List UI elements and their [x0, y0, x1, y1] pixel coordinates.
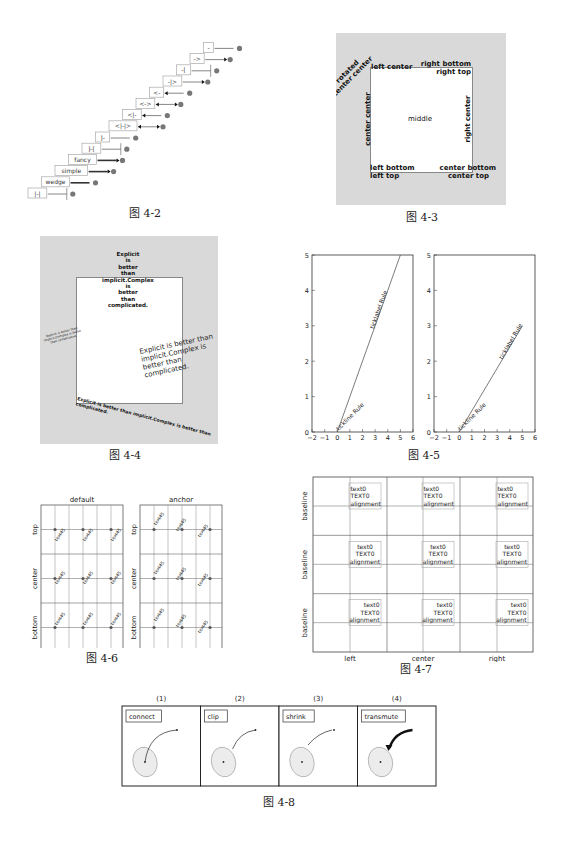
arrow-style-label: <|-|>: [115, 122, 131, 130]
svg-text:better: better: [118, 264, 138, 270]
svg-text:2: 2: [305, 358, 309, 366]
panel-label: shrink: [286, 713, 306, 721]
arrow-style-row: <|-|>: [109, 121, 166, 131]
grid-title: anchor: [169, 496, 193, 504]
figure-4-8: (1)connect(2)clip(3)shrink(4)transmute 图…: [110, 680, 450, 820]
multiline-text: TEXT0: [428, 550, 448, 557]
alignment-labels: rotated center center left center right …: [336, 33, 506, 205]
row-label: center: [130, 568, 138, 589]
arrow-style-label: -[: [181, 66, 186, 73]
svg-text:0: 0: [457, 434, 461, 442]
arrow-style-row: ]-: [96, 132, 139, 142]
svg-text:5: 5: [427, 252, 431, 260]
label-center-bottom: center bottom: [440, 164, 496, 172]
panel-label: connect: [129, 713, 155, 721]
multiline-text: alignment: [350, 558, 381, 566]
multiline-text: text0: [424, 485, 440, 492]
endpoint-dot: [111, 169, 116, 174]
figure-4-3: rotated center center left center right …: [336, 33, 506, 205]
svg-text:3: 3: [427, 322, 431, 330]
grid-anchor: anchortoptext45text45text45centertext45t…: [130, 496, 222, 648]
svg-text:0: 0: [427, 429, 431, 437]
svg-text:4: 4: [305, 287, 309, 295]
label-left-top: left top: [370, 172, 399, 180]
figure-4-6: defaulttoptext45text45text45centertext45…: [20, 460, 250, 660]
arrow-style-row: fancy: [69, 154, 126, 164]
plot-left: −2−10123456012345tickline Ruleticklabel …: [305, 252, 415, 443]
label-right-top: right top: [436, 68, 471, 76]
svg-text:complicated.: complicated.: [108, 302, 148, 309]
multiline-text: TEXT0: [433, 609, 453, 616]
svg-text:0: 0: [335, 434, 339, 442]
svg-text:4: 4: [508, 434, 512, 442]
label-right-bottom: right bottom: [421, 60, 471, 68]
endpoint-dot: [70, 191, 75, 196]
multiline-text: text0: [511, 601, 527, 608]
label-center-center: center center: [364, 92, 372, 146]
svg-text:5: 5: [305, 252, 309, 260]
panel-connect: (1)connect: [122, 695, 201, 786]
wrapped-text-demo: Explicitisbetterthanimplicit.Complexisbe…: [40, 236, 218, 444]
alignment-grid: baselinetext0TEXT0alignmenttext0TEXT0ali…: [301, 477, 533, 662]
endpoint-dot: [133, 135, 138, 140]
arrow-style-label: |-|: [34, 190, 40, 198]
multiline-text: text0: [504, 543, 520, 550]
svg-text:better: better: [118, 289, 138, 295]
multiline-text: alignment: [498, 500, 529, 508]
endpoint-dot: [120, 158, 125, 163]
arrow-style-row: -: [204, 42, 243, 52]
multiline-text: alignment: [424, 500, 455, 508]
figure-caption: 图 4-2: [115, 204, 175, 220]
rotation-mode-plots: −2−10123456012345tickline Ruleticklabel …: [300, 240, 550, 448]
arrow-style-row: simple: [55, 166, 116, 176]
multiline-text: text0: [357, 543, 373, 550]
svg-text:3: 3: [373, 434, 377, 442]
row-label: bottom: [130, 616, 138, 640]
panel-label: transmute: [365, 713, 399, 721]
endpoint-dot: [237, 46, 242, 51]
svg-text:than: than: [121, 296, 135, 302]
arrow-style-row: <-: [150, 87, 193, 97]
row-label: baseline: [301, 492, 309, 521]
figure-caption: 图 4-8: [249, 793, 309, 809]
arrow-style-label: ]-[: [88, 145, 95, 152]
panel-index: (2): [235, 695, 245, 703]
svg-text:3: 3: [495, 434, 499, 442]
multiline-text: alignment: [496, 616, 527, 624]
endpoint-dot: [165, 113, 170, 118]
multiline-alignment-grid: baselinetext0TEXT0alignmenttext0TEXT0ali…: [290, 470, 550, 662]
endpoint-dot: [93, 180, 98, 185]
arrow-style-label: ->: [193, 55, 200, 62]
svg-text:−1: −1: [442, 434, 452, 442]
multiline-text: alignment: [422, 616, 453, 624]
multiline-text: alignment: [497, 558, 528, 566]
svg-text:2: 2: [482, 434, 486, 442]
connection-style-panels: (1)connect(2)clip(3)shrink(4)transmute: [110, 680, 450, 790]
arrow-style-row: wedge: [42, 177, 99, 187]
svg-text:6: 6: [411, 434, 415, 442]
multiline-text: TEXT0: [350, 492, 370, 499]
grid-default: defaulttoptext45text45text45centertext45…: [31, 496, 123, 648]
row-label: top: [130, 524, 138, 535]
panel-shrink: (3)shrink: [279, 695, 358, 786]
multiline-text: TEXT0: [360, 609, 380, 616]
multiline-text: TEXT0: [423, 492, 443, 499]
row-label: center: [31, 568, 39, 589]
figure-4-5: −2−10123456012345tickline Ruleticklabel …: [300, 240, 550, 460]
col-label: left: [344, 655, 356, 662]
arrow-style-row: <->: [136, 98, 183, 108]
svg-text:3: 3: [305, 322, 309, 330]
multiline-text: text0: [498, 485, 514, 492]
multiline-text: TEXT0: [502, 550, 522, 557]
figure-4-7: baselinetext0TEXT0alignmenttext0TEXT0ali…: [290, 470, 550, 670]
multiline-text: text0: [364, 601, 380, 608]
row-label: baseline: [301, 608, 309, 637]
arrow-style-row: -[: [177, 65, 220, 77]
multiline-text: alignment: [349, 616, 380, 624]
svg-text:0: 0: [305, 429, 309, 437]
svg-text:5: 5: [398, 434, 402, 442]
svg-text:than: than: [121, 270, 135, 276]
row-label: bottom: [31, 616, 39, 640]
multiline-text: TEXT0: [355, 550, 375, 557]
svg-text:1: 1: [470, 434, 474, 442]
